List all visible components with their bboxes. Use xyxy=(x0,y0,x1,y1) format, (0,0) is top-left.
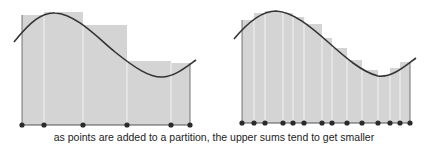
partition-point xyxy=(319,120,324,125)
partition-point xyxy=(19,122,24,127)
partition-point xyxy=(187,122,192,127)
partition-point xyxy=(280,120,285,125)
partition-point xyxy=(397,120,402,125)
upper-sum-rectangle xyxy=(293,17,304,123)
upper-sum-rectangle xyxy=(127,61,171,125)
upper-sum-rectangle xyxy=(283,13,293,123)
upper-sum-rectangle xyxy=(22,15,44,125)
upper-sum-rectangle xyxy=(83,25,127,125)
upper-sum-rectangle xyxy=(242,20,254,123)
partition-point xyxy=(251,120,256,125)
upper-sum-rectangle xyxy=(390,68,400,123)
partition-point xyxy=(301,120,306,125)
upper-sum-rectangle xyxy=(347,60,362,123)
partition-point xyxy=(80,122,85,127)
upper-sum-rectangle xyxy=(171,63,190,125)
partition-point xyxy=(407,120,412,125)
partition-point xyxy=(329,120,334,125)
upper-sum-rectangle xyxy=(362,70,378,123)
upper-sum-rectangle xyxy=(378,75,390,123)
upper-sum-rectangle xyxy=(332,48,347,123)
partition-point xyxy=(375,120,380,125)
partition-point xyxy=(387,120,392,125)
partition-point xyxy=(124,122,129,127)
upper-sum-rectangle xyxy=(304,24,322,123)
partition-point xyxy=(262,120,267,125)
upper-sum-rectangle xyxy=(322,38,332,123)
partition-point xyxy=(359,120,364,125)
partition-point xyxy=(344,120,349,125)
upper-sum-diagram xyxy=(0,0,428,145)
partition-point xyxy=(290,120,295,125)
partition-point xyxy=(41,122,46,127)
upper-sum-rectangle xyxy=(265,11,283,123)
upper-sum-rectangle xyxy=(254,13,265,123)
upper-sum-rectangle xyxy=(400,62,410,123)
upper-sum-rectangle xyxy=(44,12,83,125)
partition-point xyxy=(239,120,244,125)
caption: as points are added to a partition, the … xyxy=(0,131,428,143)
partition-point xyxy=(168,122,173,127)
